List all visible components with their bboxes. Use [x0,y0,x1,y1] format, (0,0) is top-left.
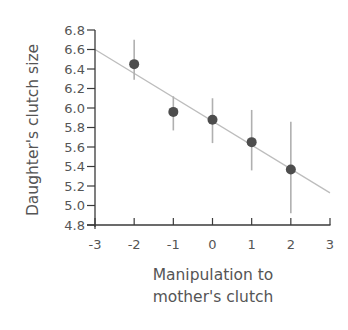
data-point [168,107,178,117]
y-axis: 4.85.05.25.45.65.86.06.26.46.66.8 [64,23,95,233]
x-tick-label: 0 [208,237,216,252]
data-point [129,59,139,69]
data-point [286,164,296,174]
x-tick-label: -1 [167,237,180,252]
x-axis: -3-2-10123 [87,218,334,252]
y-tick-label: 5.0 [64,198,85,213]
y-tick-label: 6.2 [64,81,85,96]
x-axis-title-line2: mother's clutch [153,288,274,306]
x-tick-label: 2 [287,237,295,252]
y-tick-label: 5.2 [64,179,85,194]
y-tick-label: 5.6 [64,140,85,155]
data-point [247,137,257,147]
chart-canvas: 4.85.05.25.45.65.86.06.26.46.66.8 -3-2-1… [0,0,348,330]
x-tick-label: -3 [89,237,102,252]
x-tick-label: 1 [248,237,256,252]
x-tick-label: -2 [128,237,141,252]
y-tick-label: 6.8 [64,23,85,38]
data-point [208,115,218,125]
x-tick-label: 3 [326,237,334,252]
y-axis-title: Daughter's clutch size [24,44,42,216]
y-tick-label: 6.6 [64,42,85,57]
y-tick-label: 6.4 [64,62,85,77]
y-tick-label: 5.8 [64,120,85,135]
x-axis-title-line1: Manipulation to [153,266,274,284]
y-tick-label: 5.4 [64,159,85,174]
error-bars [134,40,291,214]
y-tick-label: 4.8 [64,218,85,233]
y-tick-label: 6.0 [64,101,85,116]
